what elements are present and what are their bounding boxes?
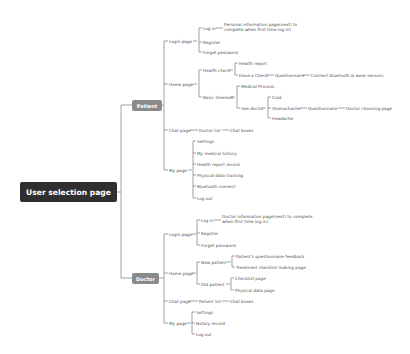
patient-chat-boxes[interactable]: Chat boxes (230, 128, 253, 133)
doctor-log-in[interactable]: Log in (201, 218, 214, 223)
root-node[interactable]: User selection page (20, 182, 117, 202)
basic-illnesses[interactable]: Basic illnesses (203, 95, 233, 100)
physical-data-tracking[interactable]: Physical data tracking (197, 173, 243, 178)
doctor-choosing-page[interactable]: Doctor choosing page (346, 106, 392, 111)
headache[interactable]: Headache (272, 116, 293, 121)
patient-log-in-note: Personal information page(next) to compl… (224, 23, 297, 32)
health-report-record[interactable]: Health report record (197, 162, 240, 167)
doctor-settings[interactable]: Settings (196, 310, 213, 315)
patient-my-page[interactable]: My page (169, 168, 187, 173)
doctor-my-page[interactable]: My page (169, 321, 187, 326)
checklist-page[interactable]: Checklist page (235, 276, 266, 281)
new-patient[interactable]: New patient (201, 260, 226, 265)
notary-record[interactable]: Notary record (196, 321, 225, 326)
doctor-chat-boxes[interactable]: Chat boxes (230, 299, 253, 304)
bluetooth-connect[interactable]: Bluetooth connect (197, 184, 235, 189)
patient-questionnaire-feedback[interactable]: Patient's questionnaire feedback (236, 254, 305, 259)
health-report[interactable]: Health report (239, 61, 267, 66)
doctor-register[interactable]: Register (201, 231, 218, 236)
doctor-login-page[interactable]: Login page (169, 232, 192, 237)
doctor-node[interactable]: Doctor (132, 273, 159, 284)
see-doctor[interactable]: See doctor (241, 106, 264, 111)
patient-list[interactable]: Patient list (199, 299, 221, 304)
health-check[interactable]: Health check (203, 68, 230, 73)
medical-process[interactable]: Medical Process (241, 84, 274, 89)
note-line-2: complete when first time log in) (224, 28, 297, 33)
doctor-home-page[interactable]: Home page (169, 271, 193, 276)
connect-bluetooth[interactable]: Connect bluetooth & wear sensors (311, 73, 383, 78)
old-patient[interactable]: Old patient (201, 282, 224, 287)
have-a-check[interactable]: Have a Check (239, 73, 268, 78)
doctor-list[interactable]: Doctor list (199, 128, 221, 133)
patient-home-page[interactable]: Home page (169, 82, 193, 87)
patient-log-in[interactable]: Log in (203, 26, 216, 31)
my-medical-history[interactable]: My medical history (197, 151, 237, 156)
patient-register[interactable]: Register (203, 40, 220, 45)
doctor-log-out[interactable]: Log out (196, 332, 212, 337)
patient-settings[interactable]: Settings (197, 139, 214, 144)
note-line-2: when first time log in) (222, 220, 312, 225)
patient-forgot-password[interactable]: Forget password (203, 50, 238, 55)
questionnaire[interactable]: Questionnaire (275, 73, 304, 78)
patient-login-page[interactable]: Login page (169, 39, 192, 44)
patient-log-out[interactable]: Log out (197, 196, 213, 201)
treatment-checklist-page[interactable]: Treatment checklist making page (236, 265, 306, 270)
doctor-log-in-note: Doctor information page(next) to complet… (222, 215, 312, 224)
patient-node[interactable]: Patient (132, 100, 162, 111)
doctor-forgot-password[interactable]: Forget password (201, 243, 236, 248)
doctor-chat-page[interactable]: Chat page (169, 299, 191, 304)
cold[interactable]: Cold (272, 95, 281, 100)
physical-data-page[interactable]: Physical data page (235, 288, 275, 293)
patient-chat-page[interactable]: Chat page (169, 128, 191, 133)
stomachache[interactable]: Stomachache (272, 106, 301, 111)
questionnaire-2[interactable]: Questionnaire (308, 106, 337, 111)
